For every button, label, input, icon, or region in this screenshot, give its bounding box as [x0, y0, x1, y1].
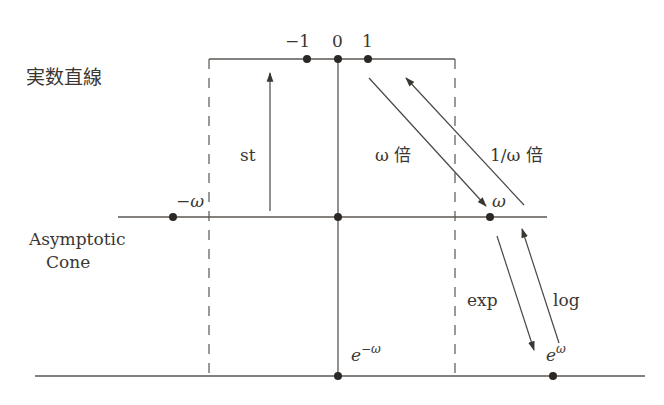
point-one — [364, 55, 372, 63]
point-minus-omega — [169, 213, 177, 221]
label-inv-omega-times: 1/ω 倍 — [490, 145, 543, 165]
point-omega — [486, 213, 494, 221]
asymptotic-label-line2: Cone — [46, 252, 90, 272]
label-st: st — [240, 145, 256, 165]
label-omega: ω — [492, 191, 506, 211]
label-e-neg-omega: e−ω — [351, 342, 381, 365]
e-base: e — [351, 345, 361, 365]
omega-times-arrow — [369, 78, 486, 206]
label-one: 1 — [362, 31, 373, 51]
omega-superscript: ω — [556, 342, 566, 356]
real-line-label: 実数直線 — [26, 66, 102, 88]
label-omega-times: ω 倍 — [375, 145, 411, 165]
point-cone-origin — [334, 213, 342, 221]
log-arrow — [522, 229, 559, 343]
label-minus-omega: −ω — [176, 191, 204, 211]
asymptotic-label-line1: Asymptotic — [28, 229, 125, 249]
point-minus-one — [303, 55, 311, 63]
exp-arrow — [497, 236, 534, 350]
point-e-omega — [549, 372, 557, 380]
label-exp: exp — [467, 290, 498, 310]
label-e-omega: eω — [546, 342, 566, 365]
point-e-neg-omega — [334, 372, 342, 380]
label-zero: 0 — [332, 31, 343, 51]
e-base: e — [546, 345, 556, 365]
label-minus-one: −1 — [285, 31, 310, 51]
point-zero — [334, 55, 342, 63]
neg-omega-superscript: −ω — [361, 342, 381, 356]
inv-omega-times-arrow — [406, 78, 524, 205]
label-log: log — [553, 290, 580, 310]
asymptotic-cone-diagram: 実数直線 Asymptotic Cone −1 0 1 −ω ω st ω 倍 … — [0, 0, 664, 405]
